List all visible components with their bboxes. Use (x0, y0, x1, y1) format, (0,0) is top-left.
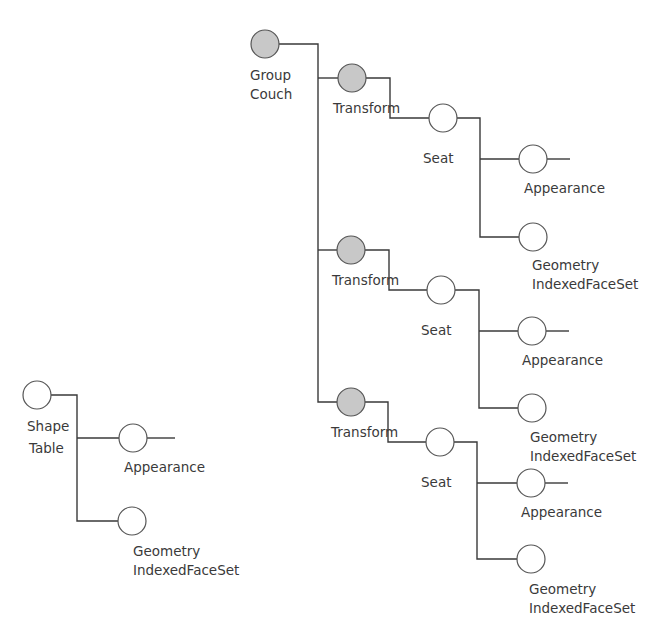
transform-node-icon (337, 388, 365, 416)
seat-node-3: Seat (421, 428, 454, 490)
geometry-label: Geometry (529, 581, 596, 597)
geometry-label: Geometry (133, 543, 200, 559)
table-geometry-node: Geometry IndexedFaceSet (118, 507, 239, 578)
geometry-node-3: Geometry IndexedFaceSet (517, 545, 635, 616)
transform-node-icon (337, 236, 365, 264)
geometry-node-2: Geometry IndexedFaceSet (518, 394, 636, 464)
seat-label: Seat (421, 322, 451, 338)
geometry-node-icon (118, 507, 146, 535)
couch-label: Couch (250, 86, 292, 102)
transform-label: Transform (330, 424, 398, 440)
indexedfaceset-label: IndexedFaceSet (532, 276, 638, 292)
appearance-node-1: Appearance (519, 145, 605, 196)
seat-node-1: Seat (423, 104, 457, 166)
appearance-node-icon (119, 424, 147, 452)
indexedfaceset-label: IndexedFaceSet (530, 448, 636, 464)
geometry-node-icon (517, 545, 545, 573)
seat-node-2: Seat (421, 276, 455, 338)
seat-node-icon (427, 276, 455, 304)
geometry-node-icon (519, 223, 547, 251)
seat-node-icon (426, 428, 454, 456)
shape-node-icon (23, 381, 51, 409)
appearance-label: Appearance (521, 504, 602, 520)
geometry-node-1: Geometry IndexedFaceSet (519, 223, 638, 292)
indexedfaceset-label: IndexedFaceSet (529, 600, 635, 616)
group-couch-node: Group Couch (250, 30, 292, 102)
seat-label: Seat (423, 150, 453, 166)
table-appearance-node: Appearance (119, 424, 205, 475)
appearance-node-icon (518, 317, 546, 345)
group-node-icon (251, 30, 279, 58)
geometry-label: Geometry (530, 429, 597, 445)
appearance-node-icon (519, 145, 547, 173)
shape-label: Shape (27, 418, 69, 434)
appearance-label: Appearance (124, 459, 205, 475)
transform-label: Transform (331, 272, 399, 288)
transform-label: Transform (332, 100, 400, 116)
appearance-node-icon (517, 469, 545, 497)
appearance-node-3: Appearance (517, 469, 602, 520)
appearance-label: Appearance (524, 180, 605, 196)
group-label: Group (250, 67, 291, 83)
appearance-label: Appearance (522, 352, 603, 368)
seat-label: Seat (421, 474, 451, 490)
geometry-node-icon (518, 394, 546, 422)
transform-node-icon (338, 64, 366, 92)
geometry-label: Geometry (532, 257, 599, 273)
table-edges (51, 395, 175, 521)
shape-table-node: Shape Table (23, 381, 69, 456)
scene-graph-diagram: Group Couch Transform Seat Appearance Ge… (0, 0, 666, 627)
appearance-node-2: Appearance (518, 317, 603, 368)
indexedfaceset-label: IndexedFaceSet (133, 562, 239, 578)
table-label: Table (28, 440, 64, 456)
seat-node-icon (429, 104, 457, 132)
